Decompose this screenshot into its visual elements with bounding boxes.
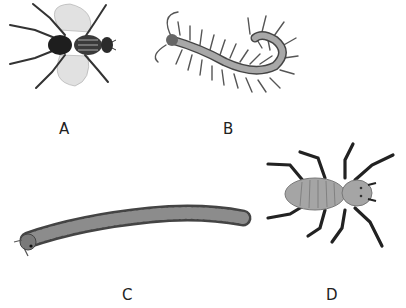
centipede-illustration bbox=[155, 12, 298, 92]
millipede-illustration bbox=[14, 213, 243, 256]
arthropod-diagram bbox=[0, 0, 406, 308]
label-b: B bbox=[223, 120, 233, 138]
fly-illustration bbox=[10, 4, 116, 88]
label-d: D bbox=[326, 286, 338, 304]
mite-illustration bbox=[268, 144, 393, 246]
label-c: C bbox=[122, 286, 132, 304]
label-a: A bbox=[59, 120, 69, 138]
